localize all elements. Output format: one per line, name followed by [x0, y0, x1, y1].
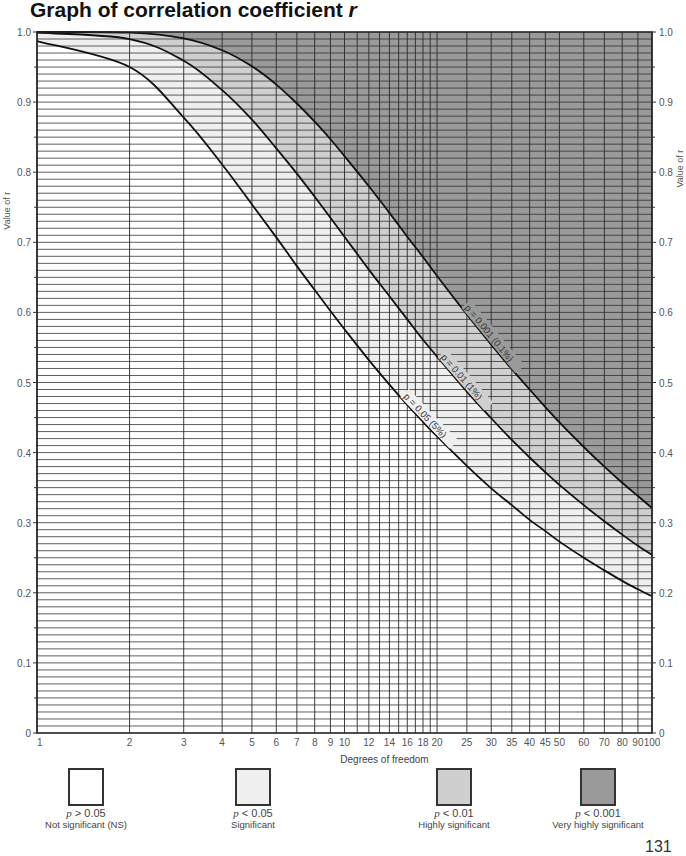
x-tick-label: 50 — [554, 737, 566, 748]
legend-item-significant: p < 0.05 Significant — [173, 768, 333, 830]
vertical-gridlines — [37, 32, 652, 733]
legend-swatch — [68, 768, 104, 806]
legend-item-highly-significant: p < 0.01 Highly significant — [374, 768, 534, 830]
x-tick-label: 12 — [363, 737, 375, 748]
y-tick-label: 0.3 — [659, 518, 673, 529]
correlation-chart: p = 0.05 (5%)p = 0.01 (1%)p = 0.001 (0.1… — [0, 0, 686, 770]
legend-label: Highly significant — [374, 819, 534, 830]
y-tick-label: 0.7 — [659, 237, 673, 248]
y-tick-label: 0.2 — [17, 588, 31, 599]
y-tick-label: 0.4 — [659, 448, 673, 459]
y-tick-label: 0.8 — [659, 167, 673, 178]
y-axis-right: 00.10.20.30.40.50.60.70.80.91.0 — [652, 27, 673, 739]
legend-label: Significant — [173, 819, 333, 830]
x-tick-label: 25 — [461, 737, 473, 748]
y-axis-label-right: Value of r — [675, 150, 685, 188]
x-tick-label: 45 — [540, 737, 552, 748]
legend-condition: p < 0.01 — [374, 808, 534, 819]
y-tick-label: 0.7 — [17, 237, 31, 248]
y-axis-label-left: Value of r — [2, 192, 12, 230]
y-axis-left: 00.10.20.30.40.50.60.70.80.91.0 — [17, 27, 37, 739]
y-tick-label: 0.5 — [17, 378, 31, 389]
x-tick-label: 18 — [417, 737, 429, 748]
y-tick-label: 1.0 — [659, 27, 673, 38]
legend-condition: p < 0.001 — [518, 808, 678, 819]
legend-item-not-significant: p > 0.05 Not significant (NS) — [6, 768, 166, 830]
x-tick-label: 30 — [486, 737, 498, 748]
legend-swatch — [235, 768, 271, 806]
y-tick-label: 0 — [25, 728, 31, 739]
legend-condition: p > 0.05 — [6, 808, 166, 819]
x-tick-label: 90 — [632, 737, 644, 748]
x-tick-label: 40 — [524, 737, 536, 748]
x-tick-label: 6 — [274, 737, 280, 748]
y-tick-label: 0.9 — [659, 97, 673, 108]
y-tick-label: 1.0 — [17, 27, 31, 38]
x-tick-label: 16 — [402, 737, 414, 748]
y-tick-label: 0.6 — [17, 307, 31, 318]
legend-swatch — [580, 768, 616, 806]
x-tick-label: 8 — [312, 737, 318, 748]
y-tick-label: 0.5 — [659, 378, 673, 389]
x-tick-label: 9 — [328, 737, 334, 748]
x-tick-label: 1 — [37, 737, 43, 748]
legend-label: Very highly significant — [518, 819, 678, 830]
page-number: 131 — [645, 838, 672, 856]
x-tick-label: 70 — [599, 737, 611, 748]
x-tick-label: 10 — [339, 737, 351, 748]
y-tick-label: 0.3 — [17, 518, 31, 529]
x-tick-label: 7 — [294, 737, 300, 748]
x-tick-label: 2 — [127, 737, 133, 748]
y-tick-label: 0.6 — [659, 307, 673, 318]
x-tick-label: 35 — [506, 737, 518, 748]
y-tick-label: 0.8 — [17, 167, 31, 178]
x-tick-label: 60 — [578, 737, 590, 748]
x-axis-label: Degrees of freedom — [340, 754, 428, 765]
x-tick-label: 5 — [249, 737, 255, 748]
x-tick-label: 3 — [181, 737, 187, 748]
y-tick-label: 0.2 — [659, 588, 673, 599]
y-tick-label: 0.4 — [17, 448, 31, 459]
y-tick-label: 0.9 — [17, 97, 31, 108]
x-tick-label: 100 — [644, 737, 661, 748]
legend-condition: p < 0.05 — [173, 808, 333, 819]
x-tick-label: 4 — [219, 737, 225, 748]
x-tick-label: 80 — [617, 737, 629, 748]
y-tick-label: 0.1 — [17, 658, 31, 669]
x-tick-label: 20 — [432, 737, 444, 748]
y-tick-label: 0.1 — [659, 658, 673, 669]
legend-label: Not significant (NS) — [6, 819, 166, 830]
x-tick-label: 14 — [384, 737, 396, 748]
legend-swatch — [436, 768, 472, 806]
legend-item-very-highly-significant: p < 0.001 Very highly significant — [518, 768, 678, 830]
x-axis: 1234567891012141618202530354045506070809… — [37, 737, 661, 748]
